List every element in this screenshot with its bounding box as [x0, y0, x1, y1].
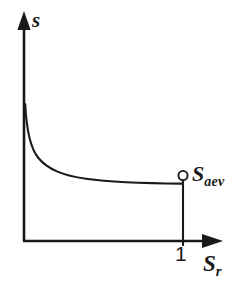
figure-container: s Sr Saev 1	[0, 0, 239, 291]
air-entry-value-label-subscript: aev	[204, 173, 224, 189]
y-axis-label: s	[32, 10, 40, 31]
x-axis-label: Sr	[203, 252, 222, 275]
air-entry-value-marker	[178, 171, 187, 180]
x-axis-label-main: S	[203, 251, 216, 276]
x-axis-arrow-icon	[202, 234, 223, 248]
suction-curve	[25, 104, 182, 184]
y-axis-label-main: s	[32, 8, 40, 32]
plot-canvas	[0, 0, 239, 291]
x-axis-label-subscript: r	[216, 263, 222, 279]
y-axis-arrow-icon	[17, 11, 30, 30]
air-entry-value-label-main: S	[192, 161, 204, 186]
x-axis-tick-label-1: 1	[175, 243, 187, 264]
air-entry-value-label: Saev	[192, 163, 224, 185]
